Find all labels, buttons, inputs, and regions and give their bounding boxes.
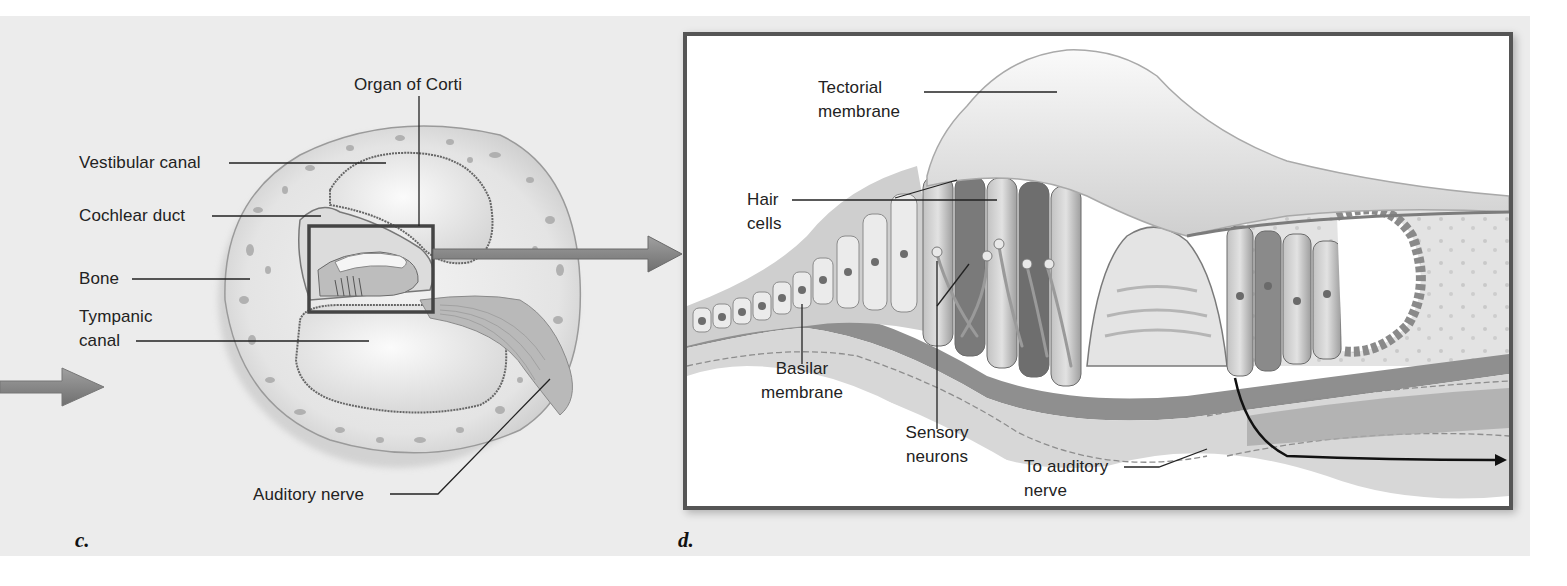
label-tympanic-canal-line1: Tympanic xyxy=(79,306,153,328)
label-sensory-neurons-line2: neurons xyxy=(887,446,987,468)
label-to-auditory-nerve-line2: nerve xyxy=(1024,480,1067,502)
label-hair-cells-line2: cells xyxy=(747,213,782,235)
panel-letter-c: c. xyxy=(75,528,90,553)
panel-d-frame: Tectorial membrane Hair cells Basilar me… xyxy=(683,32,1513,510)
input-arrow-icon xyxy=(0,368,104,406)
label-sensory-neurons-line1: Sensory xyxy=(887,422,987,444)
label-bone: Bone xyxy=(79,268,119,290)
label-hair-cells-line1: Hair xyxy=(747,189,779,211)
label-organ-of-corti: Organ of Corti xyxy=(354,74,462,96)
label-tympanic-canal-line2: canal xyxy=(79,330,120,352)
label-cochlear-duct: Cochlear duct xyxy=(79,205,185,227)
panel-d-illustration xyxy=(687,36,1509,506)
label-tectorial-line2: membrane xyxy=(818,101,900,123)
label-basilar-line1: Basilar xyxy=(747,358,857,380)
figure: Organ of Corti Vestibular canal Cochlear… xyxy=(0,0,1567,586)
label-auditory-nerve: Auditory nerve xyxy=(253,484,364,506)
label-to-auditory-nerve-line1: To auditory xyxy=(1024,456,1108,478)
label-vestibular-canal: Vestibular canal xyxy=(79,152,201,174)
panel-letter-d: d. xyxy=(678,528,694,553)
label-tectorial-line1: Tectorial xyxy=(818,77,882,99)
label-basilar-line2: membrane xyxy=(747,382,857,404)
